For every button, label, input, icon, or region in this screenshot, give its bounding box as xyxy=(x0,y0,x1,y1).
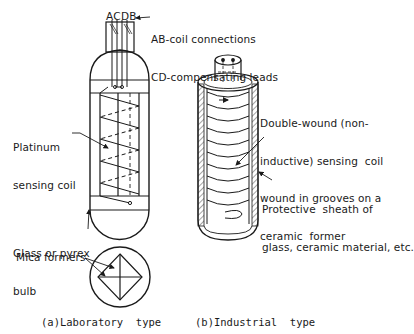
lead-neck xyxy=(106,22,134,52)
protective-sheath-label: Protective sheath of glass, ceramic mate… xyxy=(262,178,414,266)
connections-leader xyxy=(136,17,150,18)
glass-bulb-label: Glass or pyrex bulb xyxy=(13,222,90,310)
platinum-coil-label: Platinum sensing coil xyxy=(13,116,76,204)
coil-line-1: Double-wound (non- xyxy=(260,117,383,130)
connections-line-2: CD-compensating leads xyxy=(151,71,278,84)
connections-line-1: AB-coil connections xyxy=(151,33,278,46)
industrial-caption: (b)Industrial type xyxy=(195,316,315,328)
platinum-coil xyxy=(100,87,139,205)
mica-cross-section xyxy=(90,247,150,307)
lead-wires xyxy=(112,20,127,89)
sheath-line-2: glass, ceramic material, etc. xyxy=(262,241,414,254)
platinum-coil-line-1: Platinum xyxy=(13,141,76,154)
sheath-line-1: Protective sheath of xyxy=(262,203,414,216)
mica-formers-label: Mica formers xyxy=(16,251,85,264)
glass-bulb-line-2: bulb xyxy=(13,285,90,298)
laboratory-thermometer xyxy=(90,20,150,307)
lead-pin-labels: ACDB xyxy=(106,10,137,22)
coil-line-2: inductive) sensing coil xyxy=(260,155,383,168)
platinum-coil-line-2: sensing coil xyxy=(13,179,76,192)
connections-label: AB-coil connections CD-compensating lead… xyxy=(151,8,278,96)
laboratory-caption: (a)Laboratory type xyxy=(41,316,161,328)
wound-coil xyxy=(207,88,249,224)
